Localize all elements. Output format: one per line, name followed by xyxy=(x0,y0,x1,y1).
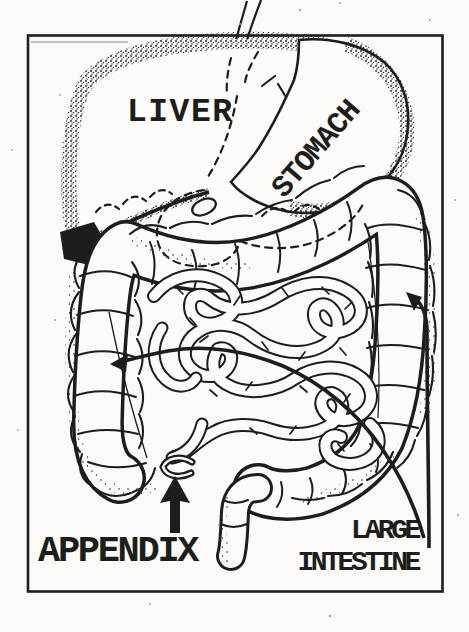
large-intestine-label-line1: LARGE xyxy=(351,515,421,546)
appendix-label: APPENDIX xyxy=(38,530,200,572)
appendix-arrow xyxy=(160,476,190,533)
scanned-diagram-page: LIVER STOMACH APPENDIX LARGE INTESTINE xyxy=(0,0,469,632)
digestive-system-figure: LIVER STOMACH APPENDIX LARGE INTESTINE xyxy=(0,0,469,632)
appendix-shape xyxy=(163,458,192,476)
large-intestine-label-line2: INTESTINE xyxy=(297,547,420,578)
liver-label: LIVER xyxy=(127,94,234,131)
small-intestine-shape xyxy=(154,275,379,464)
